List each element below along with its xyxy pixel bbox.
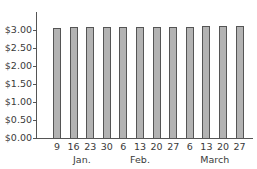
y-tick-label: $0.50 bbox=[0, 115, 32, 125]
bar bbox=[70, 27, 78, 138]
bar bbox=[86, 27, 94, 138]
y-tick-label: $2.00 bbox=[0, 61, 32, 71]
y-tick-mark bbox=[33, 138, 37, 139]
x-axis bbox=[36, 138, 253, 139]
month-label: Jan. bbox=[62, 155, 102, 165]
bar bbox=[202, 26, 210, 138]
x-tick-label: 27 bbox=[230, 142, 250, 152]
bar bbox=[103, 27, 111, 138]
y-tick-label: $2.50 bbox=[0, 43, 32, 53]
y-tick-label: $1.50 bbox=[0, 79, 32, 89]
bar bbox=[153, 27, 161, 138]
y-tick-mark bbox=[33, 66, 37, 67]
y-tick-mark bbox=[33, 84, 37, 85]
y-tick-label: $0.00 bbox=[0, 133, 32, 143]
y-tick-label: $3.00 bbox=[0, 25, 32, 35]
bar-chart: $0.00$0.50$1.00$1.50$2.00$2.50$3.00 9162… bbox=[0, 0, 257, 169]
y-tick-mark bbox=[33, 30, 37, 31]
bar bbox=[236, 26, 244, 138]
month-label: Feb. bbox=[120, 155, 160, 165]
bar bbox=[53, 28, 61, 138]
bar bbox=[219, 26, 227, 138]
bar bbox=[136, 27, 144, 138]
y-tick-mark bbox=[33, 102, 37, 103]
y-tick-mark bbox=[33, 120, 37, 121]
y-tick-label: $1.00 bbox=[0, 97, 32, 107]
bar bbox=[119, 27, 127, 138]
month-label: March bbox=[195, 155, 235, 165]
bar bbox=[169, 27, 177, 138]
y-tick-mark bbox=[33, 48, 37, 49]
bar bbox=[186, 27, 194, 138]
